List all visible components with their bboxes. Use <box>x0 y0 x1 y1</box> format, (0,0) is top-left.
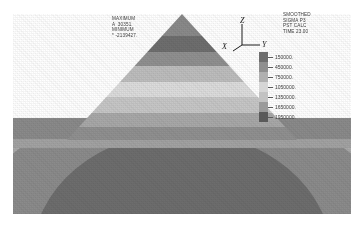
axis-label-y: Y <box>262 40 266 49</box>
legend-tick-dash-6 <box>268 117 273 118</box>
title-line-smoothed: SMOOTHED <box>283 12 311 17</box>
legend-tick-value-4: 1350000. <box>275 92 296 102</box>
legend-tick-value-1: 450000. <box>275 62 293 72</box>
legend-row-6: 1950000. <box>268 112 358 122</box>
title-line-time: TIME 23.00 <box>283 29 308 34</box>
legend-tick-dash-0 <box>268 57 273 58</box>
legend-swatch-5 <box>259 102 268 112</box>
legend-swatch-1 <box>259 62 268 72</box>
legend-color-strip <box>259 52 268 122</box>
legend-tick-value-2: 750000. <box>275 72 293 82</box>
title-line-calc: PST CALC <box>283 23 307 28</box>
legend-tick-value-0: 150000. <box>275 52 293 62</box>
legend-row-3: 1050000. <box>268 82 358 92</box>
legend-tick-value-3: 1050000. <box>275 82 296 92</box>
ground-far-field-band-2 <box>13 139 351 148</box>
legend-row-0: 150000. <box>268 52 358 62</box>
legend-row-2: 750000. <box>268 72 358 82</box>
legend-tick-dash-3 <box>268 87 273 88</box>
legend-swatch-6 <box>259 112 268 122</box>
minimum-value: -2139427. <box>115 33 137 38</box>
cone-band-8 <box>67 127 297 140</box>
legend-swatch-2 <box>259 72 268 82</box>
legend-tick-value-6: 1950000. <box>275 112 296 122</box>
axis-label-z: Z <box>240 16 244 25</box>
legend-row-5: 1650000. <box>268 102 358 112</box>
minimum-label: MINIMUM <box>112 27 134 32</box>
title-line-quantity: SIGMA P3 <box>283 18 306 23</box>
legend-tick-value-5: 1650000. <box>275 102 296 112</box>
legend-tick-dash-2 <box>268 77 273 78</box>
legend-swatch-0 <box>259 52 268 62</box>
case-title-block: SMOOTHED SIGMA P3 PST CALC TIME 23.00 <box>283 12 311 34</box>
legend-tick-list: 150000.450000.750000.1050000.1350000.165… <box>268 52 358 122</box>
legend-swatch-4 <box>259 92 268 102</box>
legend-row-4: 1350000. <box>268 92 358 102</box>
maximum-value: 30351. <box>118 22 133 27</box>
legend-tick-dash-1 <box>268 67 273 68</box>
minimum-symbol: * <box>112 33 114 38</box>
extremes-annotation: MAXIMUM A 30351. MINIMUM * -2139427. <box>112 16 137 38</box>
color-legend: 150000.450000.750000.1050000.1350000.165… <box>259 52 359 124</box>
legend-swatch-3 <box>259 82 268 92</box>
axis-label-x: X <box>222 42 227 51</box>
legend-row-1: 450000. <box>268 62 358 72</box>
maximum-symbol: A <box>112 22 115 27</box>
legend-tick-dash-4 <box>268 97 273 98</box>
maximum-label: MAXIMUM <box>112 16 135 21</box>
legend-tick-dash-5 <box>268 107 273 108</box>
